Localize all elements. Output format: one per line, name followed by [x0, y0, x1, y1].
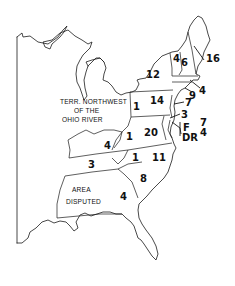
- territory-label-line-1: TERR. NORTHWEST: [60, 98, 127, 105]
- region-value-new-york: 12: [146, 69, 160, 80]
- region-value-pennsylvania: 14: [150, 95, 164, 106]
- disputed-label-line-2: DISPUTED: [66, 198, 101, 205]
- region-value-pennsylvania-west: 1: [133, 101, 140, 112]
- electoral-map: TERR. NORTHWEST OF THE OHIO RIVER AREA D…: [0, 0, 235, 286]
- region-value-south-carolina: 8: [140, 173, 147, 184]
- region-value-maine-massachusetts: 16: [206, 53, 220, 64]
- party-label-democratic-republican: DR: [182, 132, 198, 143]
- territory-label-line-3: OHIO RIVER: [62, 116, 103, 123]
- territory-label-line-2: OF THE: [74, 107, 100, 114]
- region-value-maryland-democratic-republican: 4: [200, 127, 207, 138]
- region-value-new-jersey: 7: [185, 97, 192, 108]
- region-value-rhode-island: 4: [199, 85, 206, 96]
- region-value-georgia: 4: [120, 191, 127, 202]
- region-value-north-carolina-west: 1: [132, 152, 139, 163]
- region-value-vermont: 4: [173, 53, 180, 64]
- region-value-virginia-west: 1: [126, 131, 133, 142]
- region-value-delaware: 3: [181, 109, 188, 120]
- region-value-tennessee: 3: [88, 159, 95, 170]
- region-value-new-hampshire: 6: [181, 57, 188, 68]
- region-value-north-carolina: 11: [152, 152, 166, 163]
- disputed-label-line-1: AREA: [72, 186, 91, 193]
- region-value-kentucky: 4: [104, 140, 111, 151]
- region-value-virginia: 20: [144, 127, 158, 138]
